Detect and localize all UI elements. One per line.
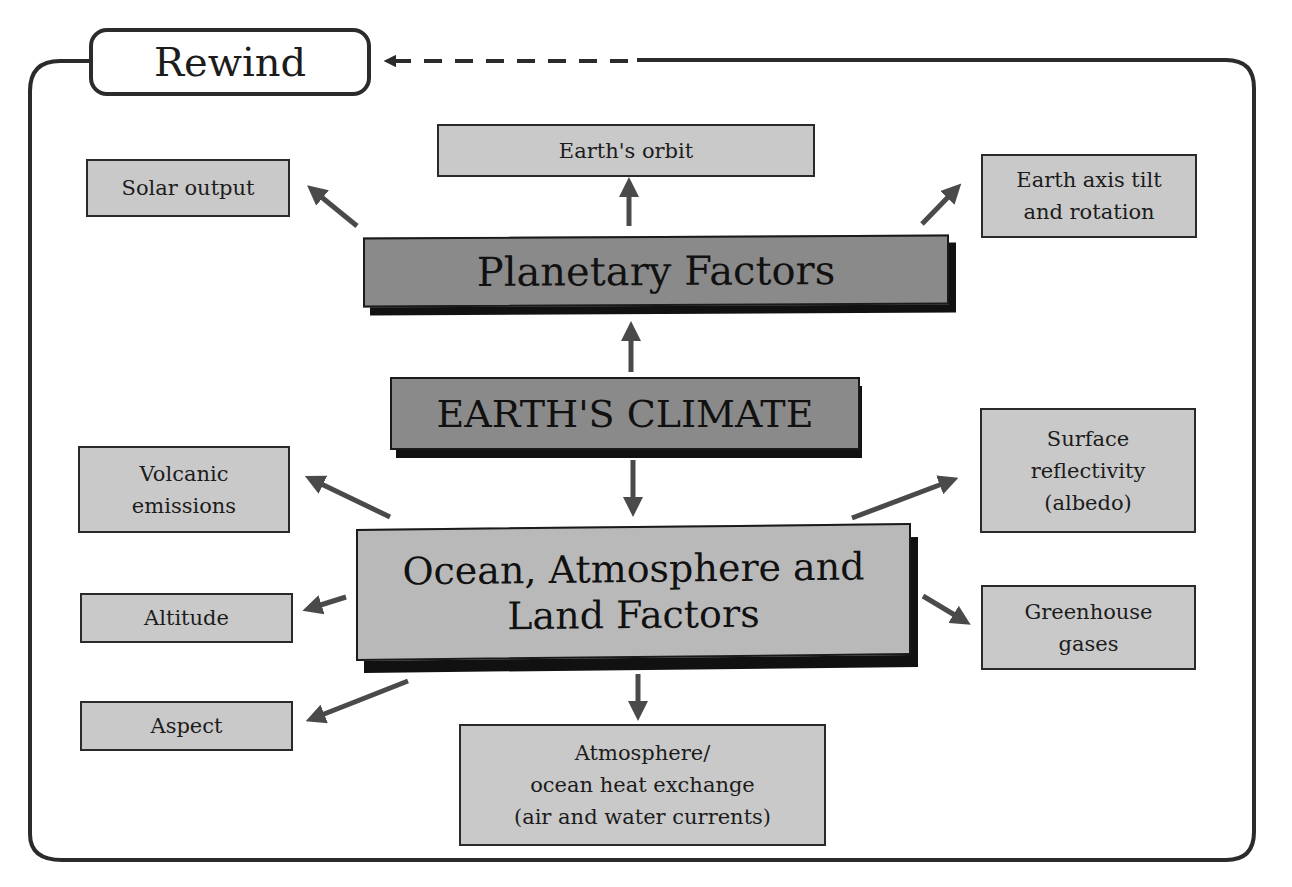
factor-axis-tilt: Earth axis tilt and rotation — [981, 154, 1197, 238]
factor-greenhouse-gases: Greenhouse gases — [981, 585, 1196, 670]
factor-earths-orbit: Earth's orbit — [437, 124, 815, 177]
arrow-to-volcanic — [313, 480, 390, 517]
arrow-to-albedo — [852, 481, 950, 518]
ocean-atmosphere-land-box: Ocean, Atmosphere and Land Factors — [356, 523, 911, 661]
arrow-to-aspect — [314, 681, 408, 718]
earths-climate-box: EARTH'S CLIMATE — [390, 377, 860, 450]
rewind-label: Rewind — [154, 39, 306, 85]
arrow-to-altitude — [311, 597, 346, 608]
factor-altitude: Altitude — [80, 593, 293, 643]
factor-solar-output: Solar output — [86, 159, 290, 217]
factor-heat-exchange: Atmosphere/ ocean heat exchange (air and… — [459, 724, 826, 846]
arrow-to-axis-tilt — [922, 190, 955, 224]
arrow-to-solar — [314, 191, 357, 226]
arrow-to-greenhouse — [923, 596, 963, 620]
planetary-factors-box: Planetary Factors — [363, 234, 949, 307]
factor-albedo: Surface reflectivity (albedo) — [980, 408, 1196, 533]
factor-aspect: Aspect — [80, 701, 293, 751]
rewind-button[interactable]: Rewind — [89, 28, 371, 96]
factor-volcanic-emissions: Volcanic emissions — [78, 446, 290, 533]
